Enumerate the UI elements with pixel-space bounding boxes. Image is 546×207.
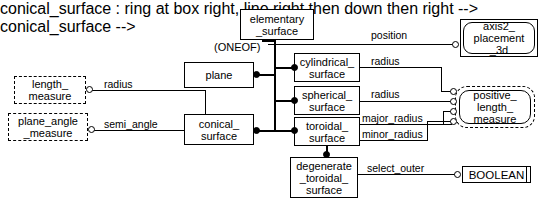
subtype-dot-spherical	[291, 97, 298, 104]
subtype-dot-toroidal	[291, 127, 298, 134]
label-semi-angle: semi_angle	[104, 119, 158, 130]
subtype-dot-plane	[253, 71, 260, 78]
axis2-placement-3d-label: axis2_ placement _3d	[463, 22, 535, 54]
express-g-diagram: conical_surface : ring at box right, lin…	[0, 0, 546, 207]
positive-length-measure-label: positive_ length_ measure	[459, 90, 531, 124]
subtype-dot-degenerate-toroidal	[323, 151, 330, 158]
entity-degenerate-toroidal-surface[interactable]: degenerate _toroidal_ surface	[290, 157, 358, 198]
line-radius-cylindrical-v	[441, 67, 442, 92]
supertype-stub	[262, 40, 276, 42]
line-semi-angle	[92, 130, 184, 131]
attribute-ring-semi-angle	[88, 126, 95, 133]
line-major-radius-h	[360, 124, 452, 125]
type-boolean[interactable]: BOOLEAN	[462, 166, 531, 183]
line-radius-cylindrical-h	[360, 67, 442, 68]
line-radius-length-measure-h	[90, 90, 206, 91]
line-position-h	[268, 44, 454, 45]
type-length-measure[interactable]: length_ measure	[14, 76, 86, 104]
label-radius-conical: radius	[104, 79, 133, 90]
entity-toroidal-surface[interactable]: toroidal_ surface	[294, 117, 360, 146]
entity-cylindrical-surface[interactable]: cylindrical_ surface	[294, 53, 360, 82]
label-minor-radius: minor_radius	[362, 129, 423, 140]
type-plane-angle-measure[interactable]: plane_angle _measure	[8, 113, 88, 141]
label-oneof: (ONEOF)	[214, 42, 260, 53]
boolean-label: BOOLEAN	[469, 169, 525, 181]
attribute-ring-select-outer	[454, 171, 461, 178]
boolean-double-edge	[526, 167, 527, 182]
attribute-ring-major-radius	[450, 108, 457, 115]
label-position: position	[371, 30, 407, 41]
line-minor-radius-h	[360, 140, 428, 141]
entity-elementary-surface[interactable]: elementary _surface	[240, 9, 314, 40]
label-select-outer: select_outer	[367, 163, 424, 174]
label-radius-cylindrical: radius	[371, 56, 400, 67]
type-axis2-placement-3d[interactable]: axis2_ placement _3d	[460, 19, 538, 57]
attribute-ring-radius-spherical	[450, 98, 457, 105]
subtype-trunk-vertical	[274, 40, 276, 131]
entity-plane[interactable]: plane	[184, 62, 254, 88]
attribute-ring-radius-cylindrical	[450, 88, 457, 95]
label-major-radius: major_radius	[362, 113, 423, 124]
line-minor-radius-v	[427, 121, 428, 141]
line-major-radius-v	[443, 111, 444, 124]
subtype-dot-cylindrical	[291, 64, 298, 71]
line-select-outer	[358, 174, 457, 175]
attribute-ring-radius-conical	[86, 86, 93, 93]
type-positive-length-measure[interactable]: positive_ length_ measure	[455, 86, 535, 128]
entity-spherical-surface[interactable]: spherical_ surface	[294, 86, 360, 115]
line-radius-spherical-h	[360, 101, 452, 102]
label-radius-spherical: radius	[371, 89, 400, 100]
attribute-ring-position	[452, 41, 459, 48]
subtype-dot-conical	[253, 127, 260, 134]
entity-conical-surface[interactable]: conical_ surface	[184, 114, 254, 145]
line-minor-radius-h2	[427, 121, 452, 122]
attribute-ring-minor-radius	[450, 118, 457, 125]
